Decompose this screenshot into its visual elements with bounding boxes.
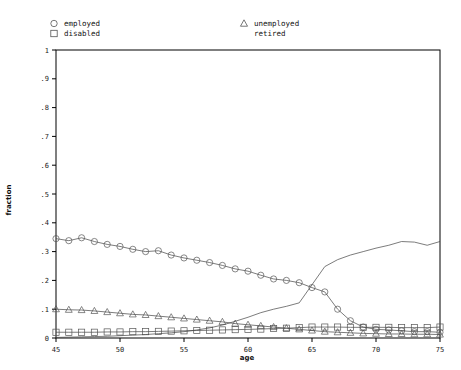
chart-svg: employeddisabledunemployedretired 455055…	[0, 0, 461, 370]
legend-label-retired: retired	[254, 29, 286, 38]
y-tick-label: .5	[41, 191, 49, 199]
series-line	[56, 238, 440, 332]
y-tick-label: .2	[41, 277, 49, 285]
y-tick-label: .9	[41, 75, 49, 83]
data-point-marker	[65, 306, 72, 312]
legend-label-disabled: disabled	[64, 29, 100, 38]
x-tick-label: 70	[372, 346, 380, 354]
y-tick-label: .6	[41, 162, 49, 170]
legend-marker-disabled	[51, 30, 57, 36]
chart-container: employeddisabledunemployedretired 455055…	[0, 0, 461, 370]
x-tick-label: 45	[52, 346, 60, 354]
y-tick-label: 0	[45, 335, 49, 343]
series-line	[56, 242, 440, 338]
chart-series	[53, 235, 444, 338]
data-point-marker	[142, 311, 149, 317]
data-point-marker	[398, 330, 405, 336]
legend-marker-employed	[51, 20, 57, 26]
y-tick-label: 1	[45, 47, 49, 55]
data-point-marker	[334, 329, 341, 335]
chart-legend: employeddisabledunemployedretired	[51, 19, 299, 38]
plot-frame	[56, 50, 440, 338]
x-axis-ticks: 45505560657075	[52, 338, 444, 354]
x-tick-label: 75	[436, 346, 444, 354]
data-point-marker	[78, 306, 85, 312]
series-employed	[53, 235, 443, 336]
y-tick-label: .4	[41, 219, 49, 227]
legend-label-employed: employed	[64, 19, 100, 28]
y-tick-label: .3	[41, 248, 49, 256]
series-retired	[56, 242, 440, 338]
x-tick-label: 65	[308, 346, 316, 354]
y-tick-label: .1	[41, 306, 49, 314]
y-axis-label: fraction	[5, 185, 13, 216]
x-axis-label: age	[240, 354, 255, 362]
legend-label-unemployed: unemployed	[254, 19, 299, 28]
y-tick-label: .7	[41, 133, 49, 141]
x-tick-label: 55	[180, 346, 188, 354]
x-tick-label: 50	[116, 346, 124, 354]
y-axis-ticks: 0.1.2.3.4.5.6.7.8.91	[41, 47, 56, 343]
legend-marker-unemployed	[240, 20, 247, 26]
y-tick-label: .8	[41, 104, 49, 112]
data-point-marker	[91, 307, 98, 313]
x-tick-label: 60	[244, 346, 252, 354]
